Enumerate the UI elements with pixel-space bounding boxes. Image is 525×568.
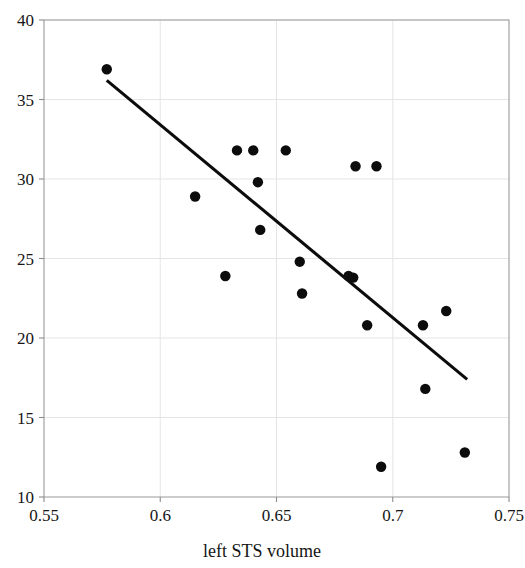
x-tick-label: 0.55 xyxy=(29,506,59,525)
data-point xyxy=(371,161,381,171)
y-tick-label: 20 xyxy=(17,329,34,348)
x-tick-label: 0.6 xyxy=(150,506,171,525)
x-tick-labels-group: 0.550.60.650.70.75 xyxy=(29,506,524,525)
data-point xyxy=(297,288,307,298)
data-point xyxy=(190,191,200,201)
data-point xyxy=(376,462,386,472)
data-point xyxy=(460,447,470,457)
x-axis-title: left STS volume xyxy=(203,541,321,561)
x-tick-label: 0.65 xyxy=(262,506,292,525)
data-point xyxy=(350,161,360,171)
scatter-plot-figure: 10152025303540 0.550.60.650.70.75 left S… xyxy=(0,0,525,568)
data-point xyxy=(232,145,242,155)
data-point xyxy=(220,271,230,281)
y-tick-label: 40 xyxy=(17,11,34,30)
y-tick-label: 35 xyxy=(17,91,34,110)
data-point xyxy=(420,384,430,394)
trend-line-group xyxy=(107,80,467,379)
data-point xyxy=(253,177,263,187)
data-point xyxy=(102,64,112,74)
data-points-group xyxy=(102,64,470,472)
data-point xyxy=(248,145,258,155)
chart-canvas: 10152025303540 0.550.60.650.70.75 left S… xyxy=(0,0,525,568)
data-point xyxy=(418,320,428,330)
x-tick-label: 0.7 xyxy=(382,506,404,525)
tick-marks-group xyxy=(39,20,509,502)
data-point xyxy=(255,225,265,235)
data-point xyxy=(441,306,451,316)
x-tick-label: 0.75 xyxy=(494,506,524,525)
data-point xyxy=(295,256,305,266)
regression-trend-line xyxy=(107,80,467,379)
y-tick-labels-group: 10152025303540 xyxy=(17,11,34,507)
data-point xyxy=(281,145,291,155)
y-tick-label: 30 xyxy=(17,170,34,189)
gridlines-group xyxy=(44,20,509,497)
y-tick-label: 10 xyxy=(17,488,34,507)
data-point xyxy=(362,320,372,330)
y-tick-label: 15 xyxy=(17,409,34,428)
y-tick-label: 25 xyxy=(17,250,34,269)
data-point xyxy=(348,272,358,282)
